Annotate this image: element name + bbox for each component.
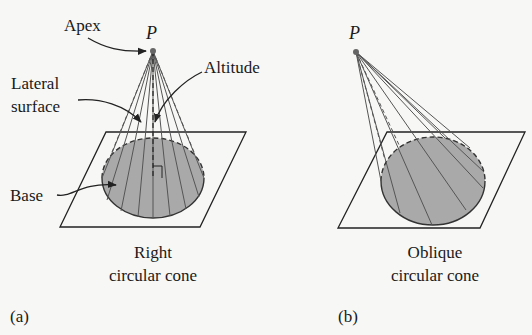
callout-lateral-line1: Lateral: [11, 74, 59, 94]
callout-altitude: Altitude: [204, 58, 260, 78]
caption-b-line2: circular cone: [374, 265, 496, 287]
base-ellipse-b: [381, 181, 485, 225]
apex-label-a: P: [146, 23, 157, 43]
callout-apex: Apex: [64, 16, 101, 36]
oblique-cone: [338, 49, 525, 228]
panel-tag-a: (a): [10, 307, 29, 327]
callout-lateral-line2: surface: [11, 97, 60, 117]
panel-tag-b: (b): [338, 307, 358, 327]
callout-base: Base: [10, 186, 43, 206]
caption-a-line2: circular cone: [92, 265, 214, 287]
caption-b-line1: Oblique: [380, 242, 490, 264]
apex-label-b: P: [349, 23, 360, 43]
caption-a-line1: Right: [102, 242, 204, 264]
apex-point-a: [150, 48, 156, 54]
apex-point-b: [353, 49, 359, 55]
